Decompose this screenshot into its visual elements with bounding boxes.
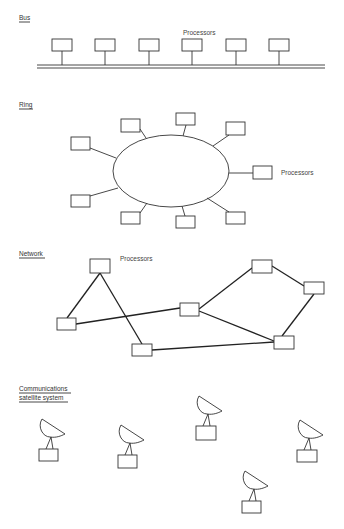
- network-processor: [304, 282, 324, 294]
- ring-section: Ring Processors: [19, 101, 314, 228]
- satellite-dish-icon: [39, 419, 65, 461]
- network-processor: [252, 260, 272, 273]
- satellite-dish-icon: [118, 425, 144, 468]
- bus-processor: [52, 39, 72, 65]
- ring-processor: [176, 113, 195, 136]
- bus-processor: [226, 39, 246, 65]
- ring-processor: [71, 188, 118, 207]
- network-link: [282, 294, 314, 336]
- bus-processor: [182, 39, 202, 65]
- ring-processor: [229, 166, 272, 179]
- network-title: Network: [19, 250, 44, 257]
- network-link: [272, 266, 304, 286]
- satellite-section: Communications satellite system: [19, 385, 323, 513]
- satellite-dish-icon: [297, 420, 323, 462]
- ring-processor: [176, 206, 195, 228]
- bus-section: Bus Processors: [19, 14, 325, 68]
- ring-processor: [121, 119, 146, 138]
- network-link: [199, 311, 274, 341]
- bus-processor: [139, 39, 159, 65]
- ring-ellipse: [113, 135, 229, 207]
- ring-processor: [71, 137, 116, 158]
- satellite-dish-icon: [196, 396, 222, 440]
- network-processor: [57, 318, 76, 330]
- network-link: [152, 342, 274, 350]
- bus-title: Bus: [19, 14, 31, 21]
- satellite-dish-icon: [242, 471, 268, 513]
- bus-processor: [269, 39, 289, 65]
- network-processors-label: Processors: [120, 255, 153, 262]
- bus-processor: [95, 39, 115, 65]
- ring-processor: [121, 203, 147, 224]
- network-processor: [180, 303, 199, 316]
- satellite-title-line2: satellite system: [19, 394, 63, 402]
- ring-processor: [207, 198, 245, 224]
- network-processor: [132, 344, 152, 356]
- bus-processors-label: Processors: [183, 29, 216, 36]
- network-processor: [274, 336, 294, 349]
- ring-title: Ring: [19, 101, 33, 109]
- topology-diagram: Bus Processors Ring Processors Network P…: [0, 0, 344, 529]
- satellite-title-line1: Communications: [19, 385, 68, 392]
- ring-processors-label: Processors: [281, 169, 314, 176]
- network-link: [199, 268, 252, 309]
- ring-processor: [213, 122, 245, 146]
- network-link: [100, 273, 142, 344]
- network-link: [67, 273, 100, 318]
- network-processor: [90, 259, 110, 273]
- network-section: Network Processors: [19, 250, 324, 356]
